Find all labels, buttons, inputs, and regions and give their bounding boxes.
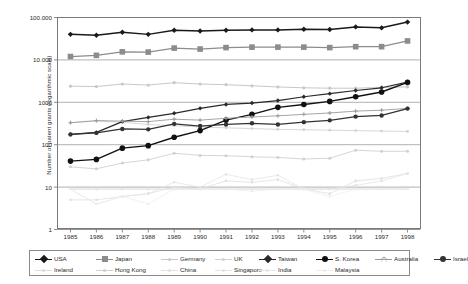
legend-item-japan: Japan (96, 254, 132, 264)
legend-label: Hong Kong (115, 266, 146, 273)
legend-item-malaysia: Malaysia (316, 265, 359, 275)
y-tick-label: 1000 (18, 99, 52, 106)
legend-marker-icon (35, 266, 52, 274)
legend-item-hong-kong: Hong Kong (96, 265, 146, 275)
series-layer (68, 19, 411, 205)
y-tick-label: 1 (18, 226, 52, 233)
y-tick-label: 10 (18, 184, 52, 191)
legend-marker-icon (35, 255, 52, 263)
legend-item-uk: UK (215, 254, 243, 264)
legend-marker-icon (259, 255, 276, 263)
legend-item-s-korea: S. Korea (316, 254, 359, 264)
series-germany (69, 81, 409, 90)
legend-label: Japan (115, 255, 132, 262)
legend-item-usa: USA (35, 254, 67, 264)
legend-item-israel: Israel (434, 254, 468, 264)
y-tick-label: 100.000 (18, 14, 52, 21)
x-tick-label: 1998 (393, 233, 423, 240)
axis-ticks (54, 18, 408, 233)
series-uk (69, 120, 409, 133)
legend-item-china: China (161, 265, 196, 275)
legend-label: USA (54, 255, 67, 262)
legend-item-taiwan: Taiwan (259, 254, 297, 264)
legend-marker-icon (259, 266, 276, 274)
legend-label: Ireland (54, 266, 73, 273)
legend-label: Australia (394, 255, 418, 262)
legend-item-india: India (259, 265, 291, 275)
series-japan (68, 38, 411, 59)
legend-label: Singapore (234, 266, 262, 273)
chart-legend: USAJapanGermanyUKTaiwanS. KoreaAustralia… (29, 250, 410, 276)
legend-marker-icon (215, 266, 232, 274)
series-usa (68, 19, 410, 38)
legend-label: Taiwan (278, 255, 297, 262)
legend-item-australia: Australia (375, 254, 418, 264)
y-tick-label: 10.000 (18, 56, 52, 63)
legend-label: S. Korea (335, 255, 359, 262)
legend-label: Malaysia (335, 266, 359, 273)
legend-label: Germany (180, 255, 205, 262)
legend-marker-icon (316, 266, 333, 274)
legend-label: Israel (453, 255, 468, 262)
series-hong-kong (69, 149, 409, 171)
legend-marker-icon (434, 255, 451, 263)
legend-item-singapore: Singapore (215, 265, 262, 275)
legend-marker-icon (375, 255, 392, 263)
legend-marker-icon (96, 266, 113, 274)
legend-marker-icon (96, 255, 113, 263)
legend-label: India (278, 266, 291, 273)
legend-label: UK (234, 255, 243, 262)
legend-marker-icon (161, 266, 178, 274)
legend-marker-icon (316, 255, 333, 263)
y-tick-label: 100 (18, 141, 52, 148)
legend-item-ireland: Ireland (35, 265, 73, 275)
legend-label: China (180, 266, 196, 273)
legend-marker-icon (161, 255, 178, 263)
legend-item-germany: Germany (161, 254, 205, 264)
legend-marker-icon (215, 255, 232, 263)
